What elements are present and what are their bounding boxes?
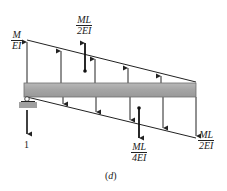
upper-moment-diagram (27, 40, 196, 83)
right-ordinate-den: 2EI (198, 141, 214, 151)
beam (24, 83, 196, 97)
bottom-resultant-den: 4EI (131, 153, 147, 163)
upper-resultant-arrow (83, 43, 87, 73)
unit-load-label: 1 (24, 139, 29, 150)
caption-close-paren: ) (113, 170, 116, 181)
top-resultant-den: 2EI (76, 26, 92, 36)
left-ordinate-den: EI (11, 41, 22, 51)
bottom-resultant-label: ML 4EI (131, 142, 147, 163)
top-resultant-label: ML 2EI (76, 15, 92, 36)
left-ordinate-label: M EI (11, 30, 22, 51)
lower-moment-diagram (27, 97, 196, 138)
right-ordinate-label: ML 2EI (198, 130, 214, 151)
conjugate-beam-diagram (0, 0, 227, 191)
figure-caption: (d) (105, 170, 117, 181)
lower-resultant-arrow (137, 106, 141, 138)
